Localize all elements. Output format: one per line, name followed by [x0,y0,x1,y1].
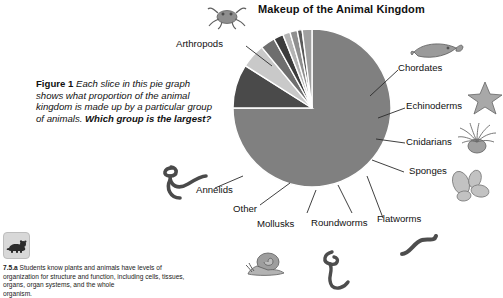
pie-chart-svg [232,18,407,198]
crab-icon [206,2,248,30]
label-echinoderms: Echinoderms [406,100,462,111]
flatworm-icon [396,228,442,262]
page-title: Makeup of the Animal Kingdom [258,3,458,15]
figure-page: Makeup of the Animal Kingdom Figure 1 Ea… [0,0,503,298]
snail-icon [246,248,292,282]
label-chordates: Chordates [398,62,442,73]
label-sponges: Sponges [409,165,447,176]
starfish-icon [467,80,503,116]
sponge-icon [444,163,492,203]
standard-code: 7.5.a [3,264,18,271]
pie-chart [232,18,407,198]
label-arthropods: Arthropods [176,38,223,49]
bear-icon [3,232,30,259]
fish-icon [408,38,464,62]
roundworm-icon [318,248,360,292]
standard-body: Students know plants and animals have le… [3,264,184,288]
sea-anemone-icon [455,120,499,156]
standard-clipped-line: organism. [3,290,187,298]
label-cnidarians: Cnidarians [406,136,452,147]
caption-question: Which group is the largest? [85,113,211,124]
label-mollusks: Mollusks [257,218,294,229]
standard-text: 7.5.a Students know plants and animals h… [3,264,187,298]
bear-glyph [4,233,29,258]
label-flatworms: Flatworms [377,213,421,224]
earthworm-icon [158,160,210,206]
figure-caption: Figure 1 Each slice in this pie graph sh… [36,78,212,124]
standard-block: 7.5.a Students know plants and animals h… [3,232,187,298]
figure-number: Figure 1 [36,78,73,89]
label-other: Other [233,203,257,214]
label-roundworms: Roundworms [311,217,368,228]
